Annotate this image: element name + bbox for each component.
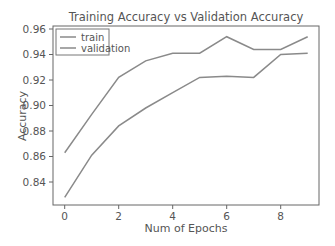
x-tick-label: 4 xyxy=(169,210,176,222)
x-axis-label: Num of Epochs xyxy=(145,222,228,235)
chart-title: Training Accuracy vs Validation Accuracy xyxy=(68,10,304,24)
x-tick-label: 6 xyxy=(223,210,230,222)
accuracy-chart: Training Accuracy vs Validation Accuracy… xyxy=(0,0,335,246)
y-tick-label: 0.86 xyxy=(23,150,47,162)
x-tick-label: 0 xyxy=(61,210,68,222)
x-tick-label: 2 xyxy=(115,210,122,222)
y-axis-label: Accuracy xyxy=(16,90,29,141)
legend-validation-label: validation xyxy=(81,43,130,54)
validation-line xyxy=(65,53,308,197)
y-tick-label: 0.96 xyxy=(23,23,47,35)
y-tick-label: 0.84 xyxy=(23,176,47,188)
y-tick-label: 0.94 xyxy=(23,48,47,60)
plot-lines xyxy=(65,37,308,198)
x-axis-ticks: 02468 xyxy=(61,205,284,222)
y-tick-label: 0.92 xyxy=(23,74,46,86)
x-tick-label: 8 xyxy=(277,210,284,222)
legend: train validation xyxy=(56,29,130,55)
legend-train-label: train xyxy=(81,32,104,43)
